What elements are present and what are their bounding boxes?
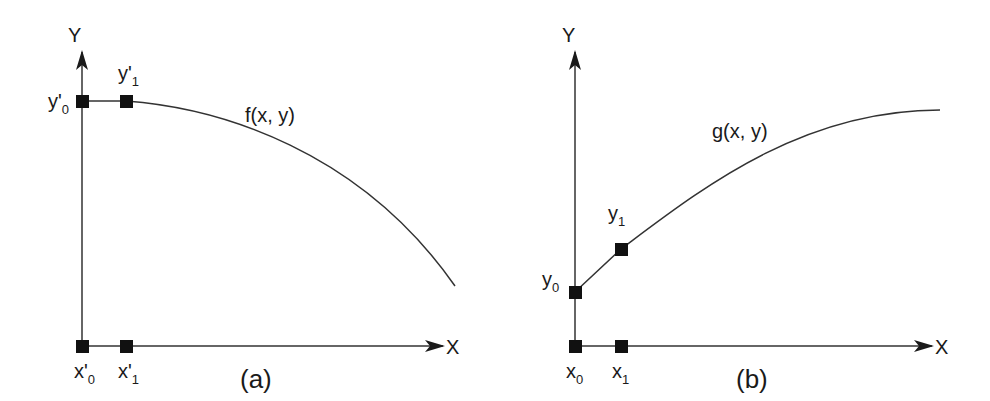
- point-y0: [569, 286, 582, 299]
- function-label-f: f(x, y): [245, 104, 295, 126]
- y-axis-label-b: Y: [562, 24, 575, 46]
- point-x0-prime: [76, 340, 89, 353]
- diagram-canvas: Y X y'0 y'1 x'0 x'1 f(x, y) (a) Y X y0 y…: [0, 0, 990, 401]
- panel-a: Y X y'0 y'1 x'0 x'1 f(x, y) (a): [48, 24, 459, 394]
- point-y0-prime: [76, 95, 89, 108]
- label-y1: y1: [608, 202, 625, 229]
- point-x0: [569, 340, 582, 353]
- point-y1-prime: [120, 95, 133, 108]
- label-y1-prime: y'1: [118, 62, 139, 89]
- label-y0-prime: y'0: [48, 90, 69, 117]
- y-axis-label-a: Y: [68, 24, 81, 46]
- panel-b: Y X y0 y1 x0 x1 g(x, y) (b): [542, 24, 948, 394]
- point-x1-prime: [120, 340, 133, 353]
- label-y0: y0: [542, 268, 559, 295]
- label-x1-prime: x'1: [118, 360, 139, 387]
- x-axis-label-a: X: [446, 336, 459, 358]
- point-x1: [615, 340, 628, 353]
- x-axis-label-b: X: [935, 336, 948, 358]
- function-label-g: g(x, y): [712, 120, 768, 142]
- curve-f: [82, 101, 455, 286]
- caption-b: (b): [736, 364, 768, 394]
- point-y1: [615, 243, 628, 256]
- label-x0-prime: x'0: [74, 360, 95, 387]
- label-x1: x1: [612, 360, 629, 387]
- label-x0: x0: [566, 360, 583, 387]
- caption-a: (a): [240, 364, 272, 394]
